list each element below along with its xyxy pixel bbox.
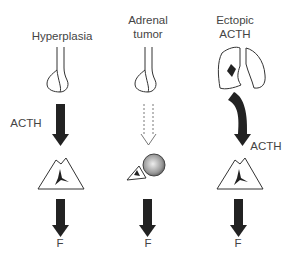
cortisol-arrow-1 xyxy=(52,199,69,237)
curved-arrow-head xyxy=(234,134,251,146)
acth-arrow-dashed xyxy=(144,104,153,134)
adrenal-tumor-icon xyxy=(143,154,165,176)
pituitary-icon-1 xyxy=(47,47,68,92)
cortisol-arrow-3 xyxy=(230,199,247,237)
acth-arrow-solid xyxy=(52,104,69,146)
lung-tumor-icon xyxy=(227,64,236,77)
diagram-figure xyxy=(0,0,291,254)
adrenal-gland-icon-1 xyxy=(38,158,84,189)
lungs-icon xyxy=(218,47,265,89)
pituitary-icon-2 xyxy=(135,47,156,92)
cortisol-arrow-2 xyxy=(139,199,156,237)
dashed-arrow-head xyxy=(141,134,156,145)
adrenal-gland-icon-3 xyxy=(217,158,263,189)
acth-arrow-curved xyxy=(228,92,247,134)
